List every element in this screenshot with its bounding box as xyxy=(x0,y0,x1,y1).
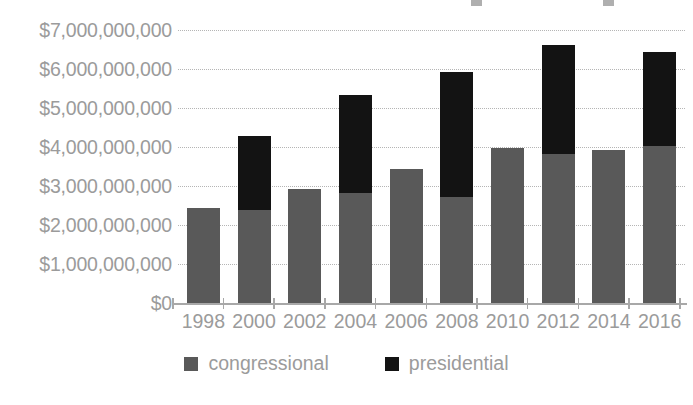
x-axis-tick-label: 2010 xyxy=(486,310,529,333)
x-axis-tick xyxy=(324,298,326,309)
bar-segment-congressional-2006[interactable] xyxy=(390,169,423,304)
y-axis-tick-label: $4,000,000,000 xyxy=(4,136,172,159)
plot-area xyxy=(178,30,685,304)
bar-2000[interactable] xyxy=(238,31,271,304)
legend-label: congressional xyxy=(208,352,328,375)
x-axis-tick xyxy=(527,298,529,309)
y-axis-tick-label: $3,000,000,000 xyxy=(4,175,172,198)
x-axis-tick xyxy=(426,298,428,309)
y-axis-tick-label: $1,000,000,000 xyxy=(4,253,172,276)
bar-segment-congressional-2008[interactable] xyxy=(440,197,473,304)
bar-1998[interactable] xyxy=(187,31,220,304)
bar-segment-congressional-2012[interactable] xyxy=(542,154,575,304)
legend-swatch-congressional xyxy=(184,357,198,371)
bar-segment-congressional-2014[interactable] xyxy=(592,150,625,304)
y-axis-tick-label: $5,000,000,000 xyxy=(4,97,172,120)
bar-2002[interactable] xyxy=(288,31,321,304)
cropped-title-artifact-left xyxy=(471,0,482,6)
y-axis-tick-label: $0 xyxy=(4,292,172,315)
x-axis: 1998200020022004200620082010201220142016 xyxy=(178,310,685,340)
bar-2006[interactable] xyxy=(390,31,423,304)
chart-legend: congressionalpresidential xyxy=(0,352,693,375)
legend-item-presidential[interactable]: presidential xyxy=(385,352,509,375)
bar-segment-congressional-2000[interactable] xyxy=(238,210,271,304)
y-axis-tick-label: $6,000,000,000 xyxy=(4,58,172,81)
bar-2010[interactable] xyxy=(491,31,524,304)
x-axis-tick xyxy=(628,298,630,309)
x-axis-tick-label: 2002 xyxy=(283,310,326,333)
bar-segment-presidential-2000[interactable] xyxy=(238,136,271,210)
bar-2014[interactable] xyxy=(592,31,625,304)
x-axis-tick-label: 2004 xyxy=(334,310,377,333)
x-axis-tick-label: 2012 xyxy=(537,310,580,333)
legend-item-congressional[interactable]: congressional xyxy=(184,352,328,375)
x-axis-tick-label: 2008 xyxy=(435,310,478,333)
legend-label: presidential xyxy=(409,352,509,375)
x-axis-tick-label: 2006 xyxy=(384,310,427,333)
bar-segment-congressional-1998[interactable] xyxy=(187,208,220,304)
bar-2008[interactable] xyxy=(440,31,473,304)
bar-segment-congressional-2016[interactable] xyxy=(643,146,676,304)
x-axis-tick xyxy=(375,298,377,309)
bar-2012[interactable] xyxy=(542,31,575,304)
x-axis-tick-label: 2000 xyxy=(232,310,275,333)
x-axis-tick-label: 2016 xyxy=(638,310,681,333)
y-axis-tick-label: $7,000,000,000 xyxy=(4,19,172,42)
bar-2016[interactable] xyxy=(643,31,676,304)
y-axis-tick-label: $2,000,000,000 xyxy=(4,214,172,237)
cropped-title-artifact-right xyxy=(603,0,614,6)
x-axis-tick xyxy=(223,298,225,309)
legend-swatch-presidential xyxy=(385,357,399,371)
x-axis-tick-label: 1998 xyxy=(182,310,225,333)
x-axis-tick xyxy=(476,298,478,309)
y-axis: $7,000,000,000$6,000,000,000$5,000,000,0… xyxy=(0,0,172,405)
stacked-bar-chart: $7,000,000,000$6,000,000,000$5,000,000,0… xyxy=(0,0,693,405)
x-axis-tick xyxy=(172,298,174,309)
bar-segment-presidential-2004[interactable] xyxy=(339,95,372,193)
bar-segment-congressional-2010[interactable] xyxy=(491,148,524,304)
bar-segment-congressional-2004[interactable] xyxy=(339,193,372,304)
x-axis-tick xyxy=(578,298,580,309)
x-axis-tick-label: 2014 xyxy=(587,310,630,333)
bar-segment-presidential-2016[interactable] xyxy=(643,52,676,146)
bar-segment-presidential-2008[interactable] xyxy=(440,72,473,197)
x-axis-tick xyxy=(273,298,275,309)
bar-segment-congressional-2002[interactable] xyxy=(288,189,321,304)
bar-2004[interactable] xyxy=(339,31,372,304)
bar-segment-presidential-2012[interactable] xyxy=(542,45,575,154)
x-axis-tick xyxy=(679,298,681,309)
x-axis-line xyxy=(172,303,687,305)
